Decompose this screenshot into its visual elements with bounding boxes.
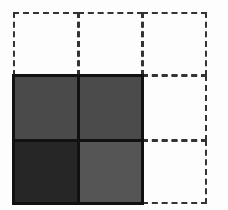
empty-grid-cell (142, 12, 207, 76)
empty-grid-cell (142, 140, 207, 204)
empty-grid-cell (142, 75, 207, 141)
filled-grid-cell (77, 139, 144, 205)
filled-grid-cell (77, 74, 144, 142)
empty-grid-cell (13, 12, 79, 76)
grid-diagram (0, 0, 228, 210)
filled-grid-cell (12, 139, 80, 205)
empty-grid-cell (78, 12, 143, 76)
filled-grid-cell (12, 74, 80, 142)
